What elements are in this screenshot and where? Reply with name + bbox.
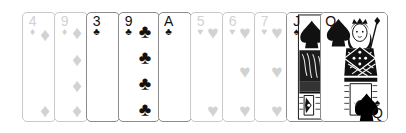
card-pip-diamonds-icon: ♦ xyxy=(37,101,53,120)
playing-card-9-of-clubs[interactable]: 9♣♣♣♣♣ xyxy=(118,12,160,122)
card-pip-diamonds-icon: ♦ xyxy=(69,101,85,120)
card-pip-column: ♥♥ xyxy=(205,17,221,118)
card-suit-icon: ♣ xyxy=(90,27,103,37)
card-pip-diamonds-icon: ♦ xyxy=(37,25,53,44)
card-pip-hearts-icon: ♥ xyxy=(237,23,253,42)
card-index-corner: 3♣ xyxy=(90,14,103,37)
card-pip-clubs-icon: ♣ xyxy=(133,100,157,119)
card-pip-clubs-icon: ♣ xyxy=(133,48,157,67)
card-index-corner-bottom: ♠Q xyxy=(371,98,384,120)
card-index-corner: Q♠ xyxy=(324,14,337,37)
card-pip-diamonds-icon: ♦ xyxy=(69,76,85,95)
card-pip-column: ♥♥♥ xyxy=(237,17,253,118)
card-pip-clubs-icon: ♣ xyxy=(133,22,157,41)
playing-card-q-of-spades[interactable]: Q♠♠Q xyxy=(320,12,388,122)
card-pip-diamonds-icon: ♦ xyxy=(69,50,85,69)
card-pip-hearts-icon: ♥ xyxy=(269,101,285,120)
card-pip-column: ♦♦ xyxy=(37,17,53,118)
card-pip-diamonds-icon: ♦ xyxy=(69,23,85,42)
card-pip-hearts-icon: ♥ xyxy=(269,23,285,42)
card-suit-icon: ♠ xyxy=(290,27,303,37)
card-pip-hearts-icon: ♥ xyxy=(237,62,253,81)
playing-card-6-of-hearts[interactable]: 6♥♥♥♥ xyxy=(222,12,256,122)
card-pip-column: ♣♣♣♣ xyxy=(133,17,157,118)
card-index-corner: A♣ xyxy=(162,14,175,37)
card-hand: 4♦♦♦9♦♦♦♦♦3♣9♣♣♣♣♣A♣5♥♥♥6♥♥♥♥7♥♥♥♥ xyxy=(0,0,406,133)
playing-card-a-of-clubs[interactable]: A♣ xyxy=(158,12,192,122)
playing-card-9-of-diamonds[interactable]: 9♦♦♦♦♦ xyxy=(54,12,88,122)
playing-card-3-of-clubs[interactable]: 3♣ xyxy=(86,12,120,122)
card-pip-hearts-icon: ♥ xyxy=(237,101,253,120)
playing-card-5-of-hearts[interactable]: 5♥♥♥ xyxy=(190,12,224,122)
card-pip-column: ♦♦♦♦ xyxy=(69,17,85,118)
card-pip-hearts-icon: ♥ xyxy=(205,101,221,120)
card-index-corner: J♠ xyxy=(290,14,303,37)
card-rank-label: Q xyxy=(371,106,384,120)
card-pip-hearts-icon: ♥ xyxy=(269,62,285,81)
card-pip-hearts-icon: ♥ xyxy=(205,23,221,42)
playing-card-4-of-diamonds[interactable]: 4♦♦♦ xyxy=(22,12,56,122)
playing-card-7-of-hearts[interactable]: 7♥♥♥♥ xyxy=(254,12,288,122)
card-pip-clubs-icon: ♣ xyxy=(133,74,157,93)
card-pip-column: ♥♥♥ xyxy=(269,17,285,118)
